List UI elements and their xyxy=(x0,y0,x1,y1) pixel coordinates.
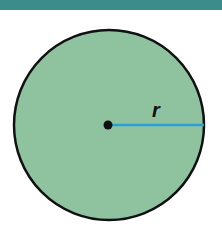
radius-label: r xyxy=(152,99,161,121)
circle-diagram: r xyxy=(0,0,222,238)
center-point xyxy=(104,121,113,130)
